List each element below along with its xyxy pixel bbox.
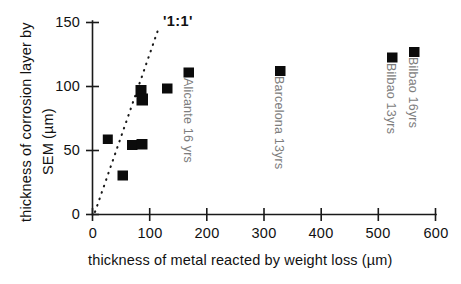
chart-figure: 150 100 50 0 0 100 200 300 400 500 600 t… [0,0,461,284]
data-markers [103,47,420,181]
data-point [103,135,113,145]
y-axis-title-line1: thickness of corrosion layer by [18,22,34,222]
data-point [409,47,420,57]
y-axis-title-line2: SEM (µm) [40,108,56,175]
data-point [137,139,148,150]
data-point [387,53,398,63]
x-tick-label-100: 100 [138,225,163,241]
x-tick-label-200: 200 [195,225,220,241]
x-axis-title: thickness of metal reacted by weight los… [88,252,458,268]
reference-line-1to1 [95,30,158,212]
x-tick-label-0: 0 [89,225,97,241]
data-point [137,94,149,106]
annotation-barcelona: Barcelona 13yrs [272,76,286,169]
data-point [275,66,286,76]
x-tick-label-400: 400 [309,225,334,241]
data-point [184,68,195,78]
x-tick-label-600: 600 [424,225,449,241]
x-tick-label-500: 500 [366,225,391,241]
reference-line-label: '1:1' [163,13,193,29]
annotation-bilbao-16yrs: Bilbao 16yrs [406,57,420,128]
data-point [118,171,129,181]
x-tick-label-300: 300 [252,225,277,241]
y-axis-title: thickness of corrosion layer by SEM (µm) [0,0,70,240]
data-point [162,84,173,94]
annotation-bilbao-13yrs: Bilbao 13yrs [384,63,398,134]
data-point [127,140,138,150]
annotation-alicante: Alicante 16 yrs [181,78,195,163]
